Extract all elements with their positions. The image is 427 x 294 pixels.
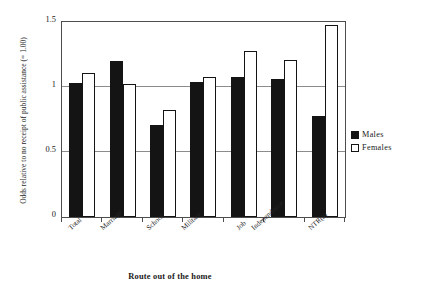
y-axis-tick-label: 0 — [30, 211, 56, 219]
bar-group — [224, 22, 264, 217]
bar-group — [183, 22, 223, 217]
x-axis-category-labels: TotalMarriageSchoolMilitaryJobIndependen… — [61, 222, 346, 270]
legend-swatch-males — [351, 131, 359, 139]
bar-females — [325, 25, 338, 217]
bar-males — [110, 61, 123, 217]
bar-males — [231, 77, 244, 217]
legend-item: Females — [351, 141, 423, 154]
y-axis-tick-label: 1 — [30, 81, 56, 89]
bar-group — [102, 22, 142, 217]
y-axis-tick-labels: 00.511.5 — [30, 0, 56, 294]
bar-group — [264, 22, 304, 217]
bar-group — [305, 22, 345, 217]
legend-label: Females — [362, 143, 392, 152]
bar-females — [284, 60, 297, 217]
bar-females — [82, 73, 95, 217]
legend-label: Males — [362, 130, 384, 139]
bar-females — [244, 51, 257, 217]
bar-group — [143, 22, 183, 217]
x-axis-category-label: Job — [235, 219, 248, 232]
bar-chart-figure: Odds relative to no receipt of public as… — [0, 0, 427, 294]
bar-males — [69, 83, 82, 217]
legend-item: Males — [351, 128, 423, 141]
y-axis-title-text: Odds relative to no receipt of public as… — [19, 37, 28, 204]
plot-area — [61, 21, 346, 218]
plot-inner — [62, 22, 345, 217]
bar-males — [312, 116, 325, 217]
chart-legend: MalesFemales — [351, 128, 423, 154]
y-axis-tick-label: 0.5 — [30, 146, 56, 154]
bar-females — [123, 84, 136, 217]
y-axis-tick-label: 1.5 — [30, 16, 56, 24]
bar-females — [163, 110, 176, 217]
bar-groups — [62, 22, 345, 217]
legend-swatch-females — [351, 144, 359, 152]
bar-females — [203, 77, 216, 217]
bar-males — [150, 125, 163, 217]
bar-group — [62, 22, 102, 217]
x-axis-title: Route out of the home — [0, 272, 340, 281]
bar-males — [190, 82, 203, 217]
bar-males — [271, 79, 284, 217]
